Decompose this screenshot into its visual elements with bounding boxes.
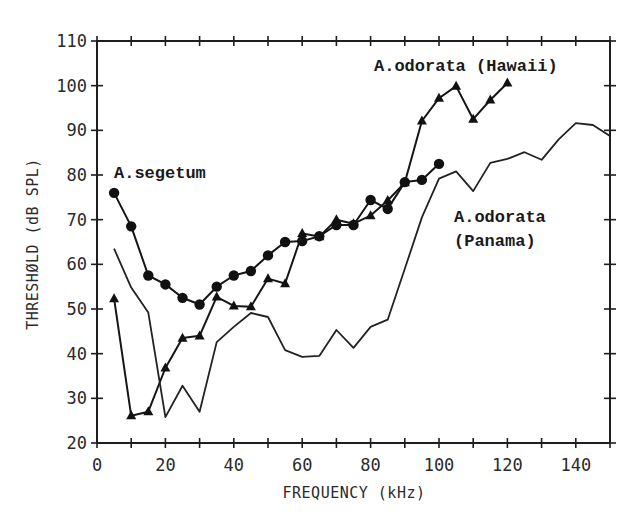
y-tick-label: 50 — [67, 299, 87, 319]
circle-marker — [177, 293, 187, 303]
triangle-marker — [143, 406, 153, 415]
circle-marker — [417, 175, 427, 185]
x-tick-label: 40 — [224, 455, 244, 475]
triangle-marker — [263, 273, 273, 282]
y-tick-labels: 2030405060708090100110 — [56, 31, 87, 453]
x-tick-label: 120 — [492, 455, 523, 475]
y-tick-label: 100 — [56, 76, 87, 96]
x-tick-label: 20 — [155, 455, 175, 475]
y-tick-label: 90 — [67, 120, 87, 140]
y-tick-label: 40 — [67, 344, 87, 364]
y-tick-label: 110 — [56, 31, 87, 51]
triangle-marker — [502, 78, 512, 87]
triangle-marker — [331, 214, 341, 223]
series-line — [114, 83, 507, 416]
y-axis-title: THRESHØLD (dB SPL) — [24, 158, 42, 330]
circle-marker — [434, 159, 444, 169]
series-label: A.odorata (Hawaii) — [374, 57, 558, 76]
circle-marker — [126, 221, 136, 231]
x-tick-labels: 020406080100120140 — [92, 455, 591, 475]
x-tick-label: 100 — [424, 455, 455, 475]
circle-marker — [229, 270, 239, 280]
x-tick-label: 80 — [360, 455, 380, 475]
circle-marker — [160, 279, 170, 289]
triangle-marker — [195, 330, 205, 339]
circle-marker — [143, 270, 153, 280]
triangle-marker — [109, 293, 119, 302]
y-tick-label: 60 — [67, 254, 87, 274]
circle-marker — [263, 250, 273, 260]
series-label: A.odorata(Panama) — [454, 208, 546, 251]
x-tick-label: 140 — [560, 455, 591, 475]
threshold-frequency-chart: 020406080100120140 203040506070809010011… — [0, 0, 641, 524]
y-tick-label: 20 — [67, 433, 87, 453]
circle-marker — [365, 195, 375, 205]
axis-ticks — [91, 36, 616, 448]
x-tick-label: 60 — [292, 455, 312, 475]
triangle-marker — [160, 363, 170, 372]
circle-marker — [383, 204, 393, 214]
y-tick-label: 80 — [67, 165, 87, 185]
series-a-odorata-hawaii — [109, 78, 512, 420]
circle-marker — [280, 237, 290, 247]
triangle-marker — [451, 81, 461, 90]
circle-marker — [109, 188, 119, 198]
circle-marker — [194, 299, 204, 309]
y-tick-label: 30 — [67, 388, 87, 408]
y-tick-label: 70 — [67, 210, 87, 230]
triangle-marker — [434, 93, 444, 102]
x-tick-label: 0 — [92, 455, 102, 475]
triangle-marker — [212, 292, 222, 301]
circle-marker — [212, 281, 222, 291]
series-label: A.segetum — [114, 164, 206, 183]
x-axis-title: FREQUENCY (kHz) — [283, 484, 426, 502]
circle-marker — [246, 266, 256, 276]
triangle-marker — [297, 228, 307, 237]
